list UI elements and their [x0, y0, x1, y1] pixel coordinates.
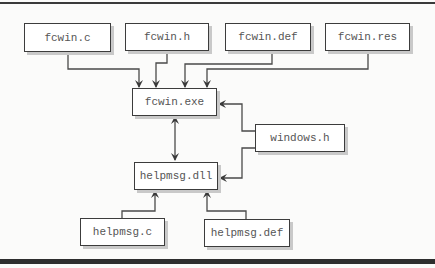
node-fcwin-c: fcwin.c: [24, 23, 111, 52]
node-windows-h: windows.h: [255, 124, 345, 152]
edge-helpmsg-def: [207, 191, 246, 219]
node-fcwin-res: fcwin.res: [325, 23, 410, 51]
node-label: windows.h: [270, 132, 329, 144]
node-label: helpmsg.dll: [140, 170, 213, 182]
node-label: helpmsg.def: [211, 227, 284, 239]
node-label: fcwin.h: [144, 31, 190, 43]
node-label: fcwin.def: [238, 31, 297, 43]
edge-fcwin-res: [207, 52, 368, 87]
node-label: fcwin.res: [338, 31, 397, 43]
diagram-canvas: fcwin.c fcwin.h fcwin.def fcwin.res fcwi…: [0, 0, 435, 268]
node-helpmsg-def: helpmsg.def: [204, 219, 290, 247]
node-fcwin-def: fcwin.def: [225, 23, 311, 51]
node-fcwin-h: fcwin.h: [125, 23, 209, 51]
node-label: helpmsg.c: [93, 226, 152, 238]
node-label: fcwin.c: [44, 32, 90, 44]
node-label: fcwin.exe: [145, 96, 204, 108]
edge-fcwin-h: [156, 52, 167, 87]
edge-windows-dll: [220, 148, 255, 178]
edge-windows-exe: [219, 104, 255, 131]
node-fcwin-exe: fcwin.exe: [132, 88, 217, 116]
edge-helpmsg-c: [122, 191, 155, 218]
edge-fcwin-c: [68, 53, 139, 87]
node-helpmsg-dll: helpmsg.dll: [134, 162, 218, 190]
node-helpmsg-c: helpmsg.c: [80, 218, 165, 246]
bottom-rule: [0, 259, 435, 264]
